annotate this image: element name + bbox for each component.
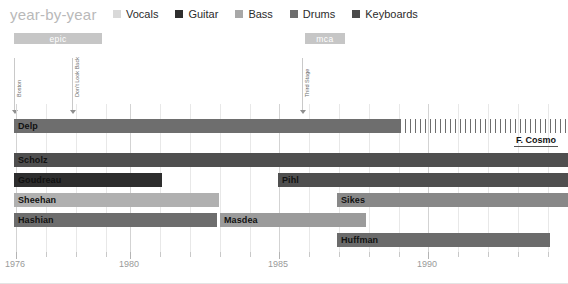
record-label-text: mca bbox=[316, 34, 333, 44]
timeline-bar-label: Goudreau bbox=[14, 175, 61, 185]
axis-tick bbox=[16, 252, 17, 259]
axis-tick-label: 1990 bbox=[417, 259, 437, 269]
legend-label: Vocals bbox=[126, 8, 158, 20]
legend-label: Drums bbox=[303, 8, 335, 20]
axis-tick bbox=[518, 252, 519, 257]
album-marker-label: Third Stage bbox=[304, 69, 310, 97]
axis-tick-label: 1980 bbox=[119, 259, 139, 269]
legend-item-bass[interactable]: Bass bbox=[235, 8, 272, 20]
axis-tick-label: 1976 bbox=[5, 259, 25, 269]
axis-tick bbox=[160, 252, 161, 257]
axis-tick bbox=[190, 252, 191, 257]
axis-tick bbox=[488, 252, 489, 257]
record-label-epic[interactable]: epic bbox=[14, 33, 102, 44]
timeline-row: HashianMasdea bbox=[0, 212, 568, 228]
timeline-row: GoudreauPihl bbox=[0, 172, 568, 188]
album-marker-label: Boston bbox=[16, 80, 22, 97]
timeline-bar-label: Scholz bbox=[14, 155, 48, 165]
timeline-bar-label: Huffman bbox=[337, 235, 378, 245]
annotation-f-cosmo: F. Cosmo bbox=[514, 135, 558, 147]
timeline-bar-dashed-continuation[interactable] bbox=[400, 119, 568, 133]
axis-tick bbox=[548, 252, 549, 257]
page-title: year-by-year bbox=[10, 6, 97, 23]
album-marker-label: Don't Look Back bbox=[74, 57, 80, 97]
timeline-bar-sikes[interactable]: Sikes bbox=[337, 193, 568, 207]
legend-item-keyboards[interactable]: Keyboards bbox=[352, 8, 418, 20]
timeline-bar-label: Sikes bbox=[337, 195, 365, 205]
legend-label: Bass bbox=[248, 8, 272, 20]
axis-tick bbox=[106, 252, 107, 257]
timeline-row: Huffman bbox=[0, 232, 568, 248]
legend-item-guitar[interactable]: Guitar bbox=[175, 8, 218, 20]
timeline-bar-label: Delp bbox=[14, 121, 38, 131]
axis-tick bbox=[76, 252, 77, 257]
legend-label: Guitar bbox=[188, 8, 218, 20]
axis-tick bbox=[309, 252, 310, 257]
timeline-row: SheehanSikes bbox=[0, 192, 568, 208]
axis-tick bbox=[339, 252, 340, 257]
timeline-bar-hashian[interactable]: Hashian bbox=[14, 213, 217, 227]
axis-tick bbox=[220, 252, 221, 257]
axis-tick bbox=[250, 252, 251, 257]
timeline-row: Scholz bbox=[0, 152, 568, 168]
axis-tick bbox=[279, 252, 280, 259]
timeline-row: Delp bbox=[0, 118, 568, 134]
legend-swatch-icon bbox=[175, 10, 183, 18]
timeline-bar-huffman[interactable]: Huffman bbox=[337, 233, 550, 247]
chart-legend: VocalsGuitarBassDrumsKeyboards bbox=[113, 8, 435, 20]
timeline-bar-sheehan[interactable]: Sheehan bbox=[14, 193, 219, 207]
legend-label: Keyboards bbox=[365, 8, 418, 20]
axis-tick bbox=[130, 252, 131, 259]
record-label-text: epic bbox=[49, 34, 66, 44]
timeline-bar-label: Sheehan bbox=[14, 195, 56, 205]
legend-swatch-icon bbox=[290, 10, 298, 18]
x-axis: 1976198019851990 bbox=[0, 252, 568, 284]
record-label-mca[interactable]: mca bbox=[305, 33, 345, 44]
axis-tick bbox=[428, 252, 429, 259]
axis-tick bbox=[399, 252, 400, 257]
legend-swatch-icon bbox=[113, 10, 121, 18]
timeline-bar-label: Hashian bbox=[14, 215, 54, 225]
timeline-bar-delp[interactable]: Delp bbox=[14, 119, 400, 133]
legend-item-drums[interactable]: Drums bbox=[290, 8, 335, 20]
legend-swatch-icon bbox=[352, 10, 360, 18]
timeline-bar-goudreau[interactable]: Goudreau bbox=[14, 173, 162, 187]
plot-area: DelpF. CosmoScholzGoudreauPihlSheehanSik… bbox=[0, 104, 568, 252]
legend-swatch-icon bbox=[235, 10, 243, 18]
legend-item-vocals[interactable]: Vocals bbox=[113, 8, 158, 20]
timeline-bar-pihl[interactable]: Pihl bbox=[278, 173, 568, 187]
axis-tick-label: 1985 bbox=[268, 259, 288, 269]
axis-tick bbox=[369, 252, 370, 257]
timeline-bar-masdea[interactable]: Masdea bbox=[220, 213, 366, 227]
timeline-bar-label: Pihl bbox=[278, 175, 299, 185]
axis-tick bbox=[46, 252, 47, 257]
timeline-bar-label: Masdea bbox=[220, 215, 258, 225]
axis-tick bbox=[458, 252, 459, 257]
timeline-bar-scholz[interactable]: Scholz bbox=[14, 153, 568, 167]
year-by-year-timeline-chart: year-by-year VocalsGuitarBassDrumsKeyboa… bbox=[0, 0, 568, 284]
